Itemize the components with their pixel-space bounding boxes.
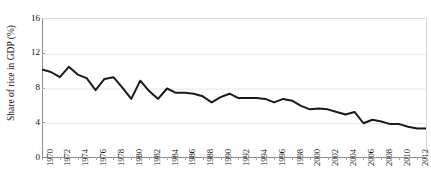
x-tick-label: 2000	[313, 149, 322, 166]
x-tick-mark	[140, 157, 141, 160]
x-tick-label: 1998	[296, 149, 305, 166]
x-tick-mark	[319, 157, 320, 160]
x-tick-label: 1984	[171, 149, 180, 166]
x-tick-mark	[149, 157, 150, 160]
x-tick-label: 1976	[99, 149, 108, 166]
x-tick-label: 1988	[206, 149, 215, 166]
x-tick-label: 2004	[349, 149, 358, 166]
x-tick-mark	[274, 157, 275, 160]
x-tick-mark	[301, 157, 302, 160]
plot-area	[42, 18, 427, 158]
x-tick-mark	[194, 157, 195, 160]
x-tick-mark	[105, 157, 106, 160]
x-tick-label: 1974	[81, 149, 90, 166]
x-tick-mark	[381, 157, 382, 160]
x-tick-label: 1982	[153, 149, 162, 166]
y-tick-label: 12	[20, 48, 40, 57]
x-tick-label: 1978	[117, 149, 126, 166]
y-tick-label: 4	[20, 118, 40, 127]
x-tick-mark	[176, 157, 177, 160]
y-axis-tick-labels: 0481216	[20, 0, 40, 194]
x-tick-label: 1996	[278, 149, 287, 166]
x-tick-mark	[408, 157, 409, 160]
x-tick-mark	[355, 157, 356, 160]
x-tick-mark	[265, 157, 266, 160]
x-tick-mark	[69, 157, 70, 160]
x-tick-label: 2008	[385, 149, 394, 166]
x-tick-mark	[390, 157, 391, 160]
x-tick-mark	[363, 157, 364, 160]
x-tick-label: 1992	[242, 149, 251, 166]
x-tick-mark	[42, 157, 43, 160]
x-tick-mark	[247, 157, 248, 160]
x-tick-label: 1972	[63, 149, 72, 166]
x-tick-mark	[113, 157, 114, 160]
x-tick-mark	[185, 157, 186, 160]
x-tick-label: 1994	[260, 149, 269, 166]
y-tick-label: 0	[20, 153, 40, 162]
x-tick-mark	[417, 157, 418, 160]
x-tick-mark	[256, 157, 257, 160]
x-tick-mark	[60, 157, 61, 160]
x-axis-tick-labels: 1970197219741976197819801982198419861988…	[42, 163, 426, 194]
x-tick-mark	[167, 157, 168, 160]
y-tick-label: 8	[20, 83, 40, 92]
x-tick-mark	[221, 157, 222, 160]
x-tick-label: 2006	[367, 149, 376, 166]
x-tick-mark	[131, 157, 132, 160]
x-tick-label: 1990	[224, 149, 233, 166]
x-tick-mark	[337, 157, 338, 160]
x-tick-label: 2002	[331, 149, 340, 166]
x-tick-mark	[51, 157, 52, 160]
x-tick-mark	[203, 157, 204, 160]
data-series-line	[42, 67, 426, 129]
x-tick-mark	[158, 157, 159, 160]
x-tick-label: 1986	[188, 149, 197, 166]
y-axis-title: Share of rice in GDP (%)	[2, 0, 20, 170]
x-tick-mark	[212, 157, 213, 160]
x-tick-mark	[426, 157, 427, 160]
x-tick-mark	[78, 157, 79, 160]
x-tick-mark	[346, 157, 347, 160]
x-tick-mark	[292, 157, 293, 160]
x-tick-mark	[87, 157, 88, 160]
x-tick-mark	[96, 157, 97, 160]
x-tick-label: 1980	[135, 149, 144, 166]
x-tick-mark	[230, 157, 231, 160]
x-tick-label: 2012	[421, 149, 430, 166]
rice-gdp-line-chart: Share of rice in GDP (%) 0481216 1970197…	[0, 0, 431, 194]
data-line-svg	[42, 19, 426, 158]
x-tick-mark	[283, 157, 284, 160]
x-tick-mark	[399, 157, 400, 160]
x-tick-mark	[328, 157, 329, 160]
x-tick-mark	[238, 157, 239, 160]
x-tick-label: 2010	[403, 149, 412, 166]
x-tick-mark	[122, 157, 123, 160]
x-tick-label: 1970	[46, 149, 55, 166]
x-tick-mark	[310, 157, 311, 160]
x-tick-mark	[372, 157, 373, 160]
y-tick-label: 16	[20, 14, 40, 23]
